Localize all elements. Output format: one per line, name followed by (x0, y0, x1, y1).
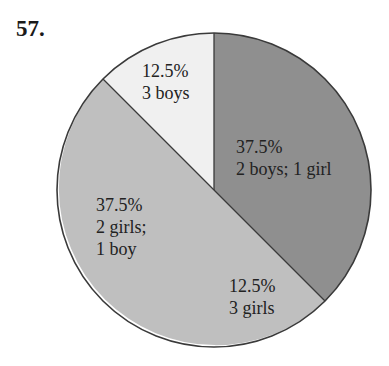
label-3-boys: 12.5% 3 boys (142, 60, 190, 104)
label-desc: 2 boys; 1 girl (236, 158, 332, 180)
label-desc: 3 girls (229, 297, 276, 319)
label-2-boys-1-girl: 37.5% 2 boys; 1 girl (236, 136, 332, 180)
label-desc-line2: 1 boy (96, 238, 147, 260)
label-percent: 12.5% (229, 275, 276, 297)
label-desc-line1: 2 girls; (96, 216, 147, 238)
label-desc: 3 boys (142, 82, 190, 104)
label-percent: 12.5% (142, 60, 190, 82)
label-3-girls: 12.5% 3 girls (229, 275, 276, 319)
label-percent: 37.5% (96, 194, 147, 216)
label-2-girls-1-boy: 37.5% 2 girls; 1 boy (96, 194, 147, 260)
pie-chart (0, 0, 389, 366)
label-percent: 37.5% (236, 136, 332, 158)
